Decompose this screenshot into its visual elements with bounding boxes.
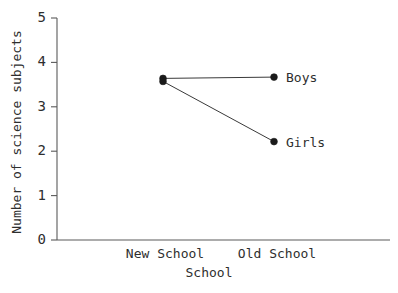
chart-figure: 0 1 2 3 4 5 Number of science subjects N… bbox=[0, 0, 398, 293]
data-point-boys-old-school bbox=[271, 74, 278, 81]
slope-chart-svg: 0 1 2 3 4 5 Number of science subjects N… bbox=[0, 0, 398, 293]
data-point-girls-new-school bbox=[160, 78, 167, 85]
y-tick-label-4: 4 bbox=[38, 53, 46, 69]
x-tick-label-new-school: New School bbox=[126, 246, 204, 261]
data-point-girls-old-school bbox=[271, 138, 278, 145]
y-tick-label-0: 0 bbox=[38, 231, 46, 247]
y-tick-label-2: 2 bbox=[38, 142, 46, 158]
y-tick-label-1: 1 bbox=[38, 187, 46, 203]
series-label-girls: Girls bbox=[286, 135, 325, 150]
x-axis-title: School bbox=[186, 265, 233, 280]
series-label-boys: Boys bbox=[286, 70, 317, 85]
y-axis-title: Number of science subjects bbox=[9, 30, 24, 234]
y-tick-label-5: 5 bbox=[38, 9, 46, 25]
y-tick-label-3: 3 bbox=[38, 98, 46, 114]
x-tick-label-old-school: Old School bbox=[238, 246, 316, 261]
